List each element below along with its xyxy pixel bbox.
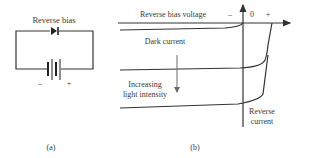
caption-b: (b) — [190, 143, 200, 152]
increasing-label: Increasing — [128, 80, 161, 89]
x-zero-label: 0 — [250, 10, 254, 19]
x-plus-label: + — [266, 10, 271, 19]
caption-a: (a) — [47, 143, 56, 152]
circuit-panel-a: Reverse bias – + (a) — [16, 15, 93, 152]
diode-icon — [51, 27, 58, 35]
light-intensity-label: light intensity — [123, 90, 167, 99]
current-label: current — [251, 117, 274, 126]
circuit-wire-right — [59, 31, 93, 69]
battery-minus-label: – — [37, 79, 43, 88]
reverse-label: Reverse — [249, 107, 275, 116]
x-minus-label: – — [227, 10, 233, 19]
dark-current-label: Dark current — [145, 37, 186, 46]
circuit-wire-left — [16, 31, 50, 69]
dark-current-curve — [120, 23, 243, 30]
iv-graph-panel-b: Reverse bias voltage – 0 + Dark current … — [118, 5, 290, 152]
battery-icon — [48, 59, 60, 80]
photodiode-diagram: Reverse bias – + (a) Reverse bias voltag… — [0, 0, 309, 158]
reverse-bias-title: Reverse bias — [32, 15, 75, 25]
x-axis-label: Reverse bias voltage — [140, 10, 207, 19]
battery-plus-label: + — [67, 79, 72, 88]
